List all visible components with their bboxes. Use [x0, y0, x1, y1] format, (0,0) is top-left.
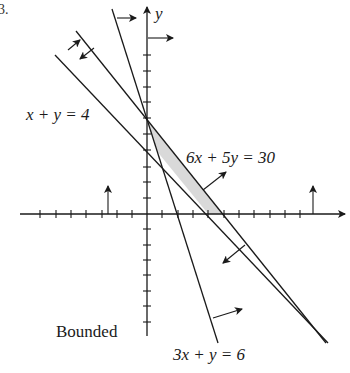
lp-diagram: y 3. x + y = 4 6x + 5y = 30 3x + y = 6 B…	[0, 0, 350, 373]
x-axis	[20, 210, 345, 218]
direction-arrow	[213, 309, 242, 318]
label-6x-plus-5y-30: 6x + 5y = 30	[186, 148, 276, 167]
figure-number: 3.	[0, 2, 9, 17]
direction-arrow	[80, 48, 94, 59]
constraint-line-3x-plus-y-6	[112, 9, 242, 343]
direction-arrow	[68, 40, 80, 50]
y-axis: y	[143, 4, 163, 336]
direction-arrow	[223, 245, 245, 263]
label-x-plus-y-4: x + y = 4	[25, 105, 90, 124]
label-3x-plus-y-6: 3x + y = 6	[172, 345, 246, 364]
direction-arrow	[203, 172, 226, 190]
bounded-caption: Bounded	[56, 322, 118, 341]
constraint-line-6x-plus-5y-30	[76, 31, 326, 343]
y-axis-label: y	[153, 4, 163, 23]
